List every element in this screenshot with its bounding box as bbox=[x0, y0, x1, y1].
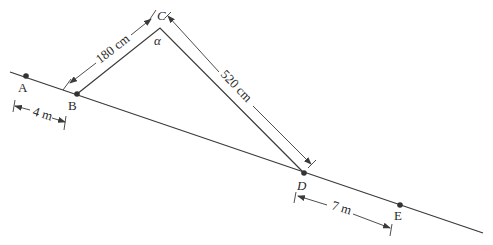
dimension-ab: 4 m bbox=[31, 104, 54, 124]
bc-tick-b bbox=[63, 79, 71, 90]
label-a: A bbox=[18, 80, 28, 95]
cd-tick-d bbox=[308, 160, 316, 168]
angle-alpha-label: α bbox=[154, 33, 162, 48]
de-arrow-1 bbox=[298, 196, 327, 205]
ab-arrow-1 bbox=[15, 106, 30, 110]
cd-arrow-2 bbox=[253, 106, 311, 164]
de-arrow-2 bbox=[353, 214, 390, 228]
point-e bbox=[397, 202, 403, 208]
de-tick-e bbox=[390, 224, 392, 236]
point-d bbox=[301, 170, 307, 176]
diagram-canvas: A B C D E α 180 cm 520 cm 4 m 7 m bbox=[0, 0, 493, 245]
label-b: B bbox=[68, 98, 77, 113]
label-e: E bbox=[394, 208, 402, 223]
bc-tick-c bbox=[150, 10, 156, 19]
label-d: D bbox=[296, 178, 307, 193]
ab-tick-b bbox=[64, 116, 66, 130]
ab-tick-a bbox=[13, 100, 15, 112]
cd-tick-c bbox=[165, 12, 171, 18]
ab-arrow-2 bbox=[52, 118, 65, 122]
dimension-cd: 520 cm bbox=[218, 67, 256, 105]
de-tick-d bbox=[294, 192, 296, 203]
bc-arrow-2 bbox=[131, 19, 151, 35]
bc-arrow-1 bbox=[70, 63, 96, 83]
dimension-de: 7 m bbox=[330, 198, 353, 218]
point-a bbox=[23, 73, 29, 79]
point-b bbox=[74, 91, 80, 97]
dimension-bc: 180 cm bbox=[93, 31, 133, 67]
label-c: C bbox=[157, 8, 166, 23]
